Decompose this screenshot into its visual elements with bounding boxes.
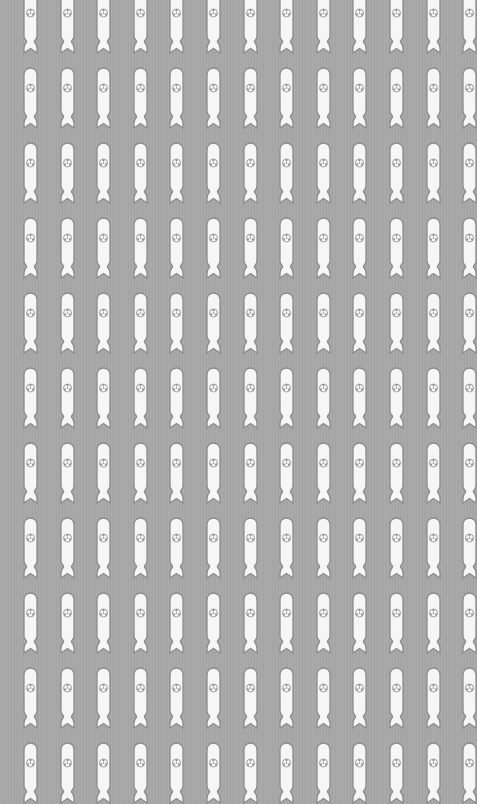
bomb-icon: [96, 517, 111, 579]
bomb-icon: [316, 517, 331, 579]
bomb-icon: [426, 0, 441, 54]
bomb-icon: [243, 142, 258, 204]
bomb-icon: [96, 217, 111, 279]
bomb-icon: [352, 667, 367, 729]
bomb-icon: [96, 142, 111, 204]
bomb-icon: [133, 142, 148, 204]
bomb-icon: [169, 142, 184, 204]
bomb-icon: [352, 292, 367, 354]
bomb-icon: [462, 0, 477, 54]
bomb-icon: [352, 442, 367, 504]
bomb-icon: [169, 217, 184, 279]
bomb-icon: [316, 592, 331, 654]
bomb-icon: [462, 742, 477, 804]
bomb-icon: [352, 0, 367, 54]
bomb-icon: [133, 292, 148, 354]
bomb-icon: [279, 217, 294, 279]
bomb-icon: [243, 367, 258, 429]
bomb-icon: [389, 292, 404, 354]
bomb-icon: [426, 217, 441, 279]
bomb-icon: [426, 667, 441, 729]
bomb-icon: [389, 67, 404, 129]
bomb-icon: [60, 517, 75, 579]
bomb-icon: [352, 142, 367, 204]
bomb-icon: [426, 67, 441, 129]
bomb-icon: [169, 742, 184, 804]
bomb-icon: [279, 67, 294, 129]
bomb-icon: [389, 742, 404, 804]
bomb-icon: [462, 517, 477, 579]
bomb-icon: [462, 292, 477, 354]
bomb-icon: [316, 742, 331, 804]
bomb-icon: [316, 142, 331, 204]
bomb-icon: [279, 667, 294, 729]
bomb-icon: [133, 0, 148, 54]
bomb-icon: [389, 592, 404, 654]
bomb-icon: [389, 367, 404, 429]
bomb-icon: [243, 67, 258, 129]
bomb-icon: [389, 517, 404, 579]
bomb-icon: [206, 367, 221, 429]
bomb-icon: [169, 0, 184, 54]
bomb-icon: [462, 367, 477, 429]
bomb-icon: [169, 67, 184, 129]
bomb-icon: [279, 142, 294, 204]
bomb-icon: [389, 142, 404, 204]
bomb-icon: [206, 292, 221, 354]
bomb-icon: [426, 142, 441, 204]
bomb-icon: [426, 592, 441, 654]
bomb-icon: [243, 742, 258, 804]
bomb-icon: [206, 667, 221, 729]
bomb-icon: [352, 592, 367, 654]
bomb-icon: [316, 217, 331, 279]
bomb-icon: [279, 367, 294, 429]
bomb-icon: [23, 217, 38, 279]
bomb-icon: [243, 667, 258, 729]
bomb-icon: [60, 442, 75, 504]
bomb-icon: [169, 442, 184, 504]
bomb-icon: [426, 367, 441, 429]
bomb-icon: [96, 667, 111, 729]
bomb-icon: [206, 592, 221, 654]
bomb-icon: [462, 142, 477, 204]
bomb-icon: [60, 292, 75, 354]
bomb-icon: [279, 292, 294, 354]
bomb-icon: [279, 742, 294, 804]
bomb-icon: [462, 442, 477, 504]
bomb-icon: [206, 217, 221, 279]
bomb-icon: [96, 0, 111, 54]
bomb-icon: [96, 292, 111, 354]
bomb-icon: [462, 67, 477, 129]
bomb-icon: [60, 67, 75, 129]
bomb-icon: [60, 217, 75, 279]
bomb-icon: [426, 517, 441, 579]
bomb-icon: [352, 517, 367, 579]
bomb-icon: [389, 217, 404, 279]
bomb-icon: [426, 292, 441, 354]
bomb-icon: [279, 0, 294, 54]
bomb-icon: [462, 592, 477, 654]
bomb-icon: [316, 0, 331, 54]
bomb-icon: [169, 517, 184, 579]
bomb-icon: [133, 217, 148, 279]
bomb-icon: [426, 742, 441, 804]
bomb-icon: [60, 742, 75, 804]
bomb-icon: [462, 667, 477, 729]
bomb-icon: [96, 367, 111, 429]
bomb-icon: [316, 667, 331, 729]
bomb-icon: [279, 592, 294, 654]
bomb-icon: [462, 217, 477, 279]
bomb-icon: [352, 217, 367, 279]
bomb-icon: [60, 367, 75, 429]
bomb-icon: [96, 442, 111, 504]
bomb-icon: [23, 517, 38, 579]
bomb-icon: [243, 592, 258, 654]
bomb-icon: [243, 0, 258, 54]
bomb-icon: [133, 592, 148, 654]
bomb-icon: [23, 142, 38, 204]
bomb-icon: [206, 67, 221, 129]
bomb-icon: [243, 217, 258, 279]
bomb-icon: [316, 442, 331, 504]
bomb-icon: [23, 667, 38, 729]
